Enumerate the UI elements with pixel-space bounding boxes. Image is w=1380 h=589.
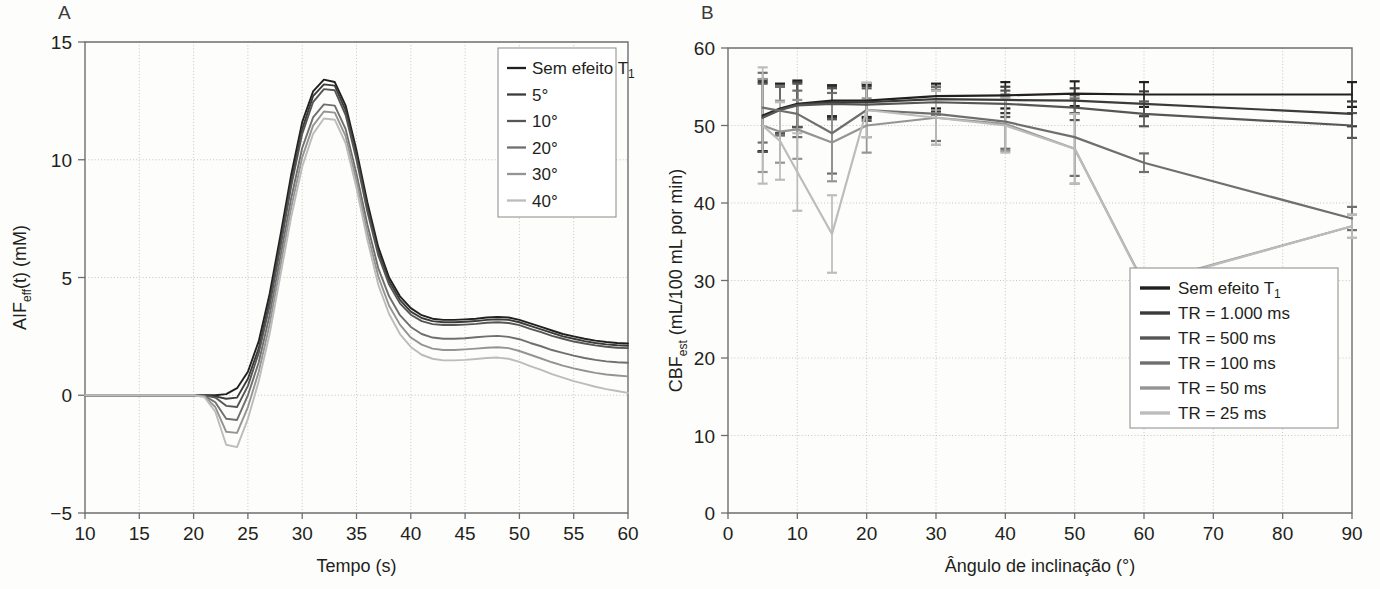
x-tick-label: 80: [1272, 523, 1293, 544]
x-tick-label: 15: [129, 523, 150, 544]
x-tick-label: 45: [455, 523, 476, 544]
legend-label: 20°: [532, 139, 558, 158]
panel-b-letter: B: [701, 2, 714, 24]
legend-label: 10°: [532, 112, 558, 131]
legend-label: 5°: [532, 86, 548, 105]
x-tick-label: 35: [346, 523, 367, 544]
legend-label: Sem efeito T1: [1178, 279, 1281, 301]
y-tick-label: 10: [51, 150, 72, 171]
legend-label: 30°: [532, 165, 558, 184]
x-tick-label: 10: [74, 523, 95, 544]
legend-label: TR = 1.000 ms: [1178, 304, 1290, 323]
y-tick-label: 0: [61, 385, 72, 406]
series-line: [763, 110, 1352, 284]
y-tick-label: 10: [694, 426, 715, 447]
panel-a-letter: A: [58, 2, 71, 24]
legend-label: TR = 50 ms: [1178, 379, 1266, 398]
y-tick-label: 50: [694, 116, 715, 137]
legend-label: TR = 500 ms: [1178, 329, 1276, 348]
x-tick-label: 70: [1203, 523, 1224, 544]
legend-label: 40°: [532, 192, 558, 211]
x-tick-label: 40: [400, 523, 421, 544]
x-tick-label: 40: [995, 523, 1016, 544]
panel-a-chart: 1015202530354045505560−5051015Tempo (s)A…: [0, 0, 660, 589]
x-tick-label: 10: [787, 523, 808, 544]
x-axis-title: Tempo (s): [316, 556, 396, 576]
x-tick-label: 20: [856, 523, 877, 544]
svg-text:AIFeff(t) (mM): AIFeff(t) (mM): [10, 225, 34, 330]
legend-label: TR = 25 ms: [1178, 404, 1266, 423]
y-tick-label: 20: [694, 348, 715, 369]
y-tick-label: 30: [694, 271, 715, 292]
y-tick-label: 15: [51, 32, 72, 53]
x-tick-label: 30: [292, 523, 313, 544]
panel-a: A 1015202530354045505560−5051015Tempo (s…: [0, 0, 660, 589]
y-tick-label: 5: [61, 268, 72, 289]
y-tick-label: 0: [704, 503, 715, 524]
y-axis-title: CBFest (mL/100 mL por min): [666, 169, 690, 392]
x-tick-label: 60: [617, 523, 638, 544]
x-tick-label: 50: [509, 523, 530, 544]
y-axis-title: AIFeff(t) (mM): [10, 225, 34, 330]
series-line: [763, 102, 1352, 125]
x-tick-label: 20: [183, 523, 204, 544]
x-tick-label: 50: [1064, 523, 1085, 544]
figure-root: A 1015202530354045505560−5051015Tempo (s…: [0, 0, 1380, 589]
legend-label: Sem efeito T1: [532, 59, 635, 81]
svg-text:CBFest (mL/100 mL por min): CBFest (mL/100 mL por min): [666, 169, 690, 392]
x-tick-label: 30: [925, 523, 946, 544]
x-tick-label: 90: [1341, 523, 1362, 544]
y-tick-label: 40: [694, 193, 715, 214]
legend-label: TR = 100 ms: [1178, 354, 1276, 373]
x-tick-label: 0: [723, 523, 734, 544]
x-axis-title: Ângulo de inclinação (°): [945, 556, 1135, 576]
y-tick-label: 60: [694, 38, 715, 59]
series-line: [763, 99, 1352, 117]
x-tick-label: 60: [1133, 523, 1154, 544]
x-tick-label: 25: [237, 523, 258, 544]
panel-b: B 01020304050607080900102030405060Ângulo…: [660, 0, 1380, 589]
panel-b-chart: 01020304050607080900102030405060Ângulo d…: [660, 0, 1380, 589]
x-tick-label: 55: [563, 523, 584, 544]
y-tick-label: −5: [50, 503, 72, 524]
